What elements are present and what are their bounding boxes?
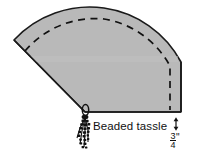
seam-allowance-dimension-arrow	[174, 117, 179, 131]
dimension-unit: "	[176, 133, 180, 143]
fan-pattern-figure: Beaded tassle 3 4 "	[0, 0, 200, 156]
dimension-label: 3 4 "	[170, 131, 180, 149]
fan-shading-band	[30, 56, 178, 62]
fraction-three-quarters: 3 4 "	[170, 133, 180, 149]
beaded-tassel-label: Beaded tassle	[93, 121, 167, 133]
